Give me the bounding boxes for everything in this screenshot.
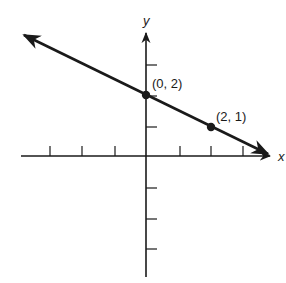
coordinate-plane: (0, 2) (2, 1) x y (0, 0, 286, 283)
y-axis-label: y (142, 13, 151, 28)
x-axis-label: x (277, 149, 285, 164)
point-b-label: (2, 1) (216, 109, 246, 124)
point-0-2 (142, 91, 150, 99)
point-a-label: (0, 2) (152, 76, 182, 91)
point-2-1 (207, 123, 215, 131)
